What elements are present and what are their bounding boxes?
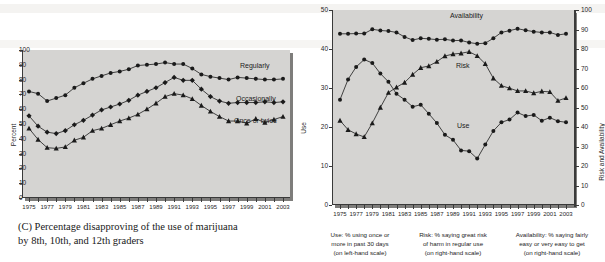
data-point <box>99 107 104 112</box>
x-tick-label-c: 1999 <box>240 204 253 210</box>
data-point <box>172 91 177 96</box>
y-tick-mark-c <box>19 198 22 199</box>
x-tick-mark-c <box>183 198 184 202</box>
series-label-regularly: Regularly <box>240 62 270 69</box>
data-point <box>354 32 358 36</box>
data-point <box>556 33 560 37</box>
data-point <box>532 113 536 117</box>
y-tick-label-right-d: 30 <box>581 143 588 150</box>
x-tick-mark-c <box>74 198 75 202</box>
data-point <box>108 104 113 109</box>
data-point <box>370 120 375 125</box>
data-point <box>548 116 552 120</box>
data-point <box>27 89 31 93</box>
data-point <box>563 95 568 100</box>
x-tick-label-d: 1981 <box>382 211 395 217</box>
data-point <box>108 122 113 127</box>
y-tick-mark-right-d <box>576 205 579 206</box>
x-tick-mark-d <box>397 205 398 209</box>
y-tick-mark-right-d <box>576 69 579 70</box>
data-point <box>435 121 439 125</box>
x-tick-mark-c <box>147 198 148 202</box>
x-tick-mark-d <box>340 205 341 209</box>
x-tick-mark-d <box>437 205 438 209</box>
data-point <box>36 92 40 96</box>
data-point <box>90 113 95 118</box>
x-tick-mark-c <box>138 198 139 202</box>
x-tick-label-c: 1981 <box>77 204 90 210</box>
x-tick-mark-c <box>283 198 284 202</box>
x-tick-label-d: 1985 <box>414 211 427 217</box>
data-point <box>118 69 122 73</box>
data-point <box>451 138 455 142</box>
data-point <box>272 78 276 82</box>
data-point <box>491 36 495 40</box>
x-tick-mark-d <box>356 205 357 209</box>
data-point <box>172 75 177 80</box>
x-tick-mark-d <box>453 205 454 209</box>
data-point <box>564 32 568 36</box>
data-point <box>386 29 390 33</box>
data-point <box>181 62 185 66</box>
data-point <box>346 32 350 36</box>
y-tick-mark-right-d <box>576 147 579 148</box>
data-point <box>145 63 149 67</box>
x-tick-label-d: 2001 <box>543 211 556 217</box>
x-tick-label-d: 1987 <box>430 211 443 217</box>
x-tick-mark-c <box>120 198 121 202</box>
x-tick-label-c: 1993 <box>186 204 199 210</box>
x-tick-mark-d <box>469 205 470 209</box>
x-tick-label-c: 1989 <box>149 204 162 210</box>
x-tick-mark-d <box>429 205 430 209</box>
data-point <box>81 81 85 85</box>
x-tick-label-d: 2003 <box>559 211 572 217</box>
y-tick-label-left-d: 50 <box>321 7 328 14</box>
data-point <box>190 96 195 101</box>
x-tick-mark-c <box>102 198 103 202</box>
data-point <box>467 41 471 45</box>
x-tick-mark-c <box>220 198 221 202</box>
x-tick-mark-d <box>348 205 349 209</box>
data-point <box>208 109 213 114</box>
data-point <box>45 130 50 135</box>
data-point <box>218 76 222 80</box>
x-tick-label-d: 1979 <box>366 211 379 217</box>
data-point <box>26 126 31 131</box>
y-tick-mark-left-d <box>329 205 332 206</box>
data-point <box>434 59 439 64</box>
data-point <box>508 118 512 122</box>
footnote-risk-line-3: (on right-hand scale) <box>406 249 500 258</box>
footnote-risk-line-2: of harm in regular use <box>406 240 500 249</box>
x-tick-label-d: 1975 <box>333 211 346 217</box>
footnote-availability-line-1: Availability: % saying fairly <box>500 231 604 240</box>
data-point <box>126 115 131 120</box>
x-tick-label-c: 2001 <box>258 204 271 210</box>
data-point <box>54 131 59 136</box>
data-point <box>354 131 359 136</box>
x-tick-mark-d <box>485 205 486 209</box>
chart-panel-c: 0102030405060708090100 Percent 197519771… <box>0 0 310 262</box>
data-point <box>263 78 267 82</box>
data-point <box>426 63 431 68</box>
footnote-use-line-2: more in past 30 days <box>314 240 406 249</box>
x-tick-mark-d <box>405 205 406 209</box>
data-point <box>483 41 487 45</box>
y-tick-mark-right-d <box>576 166 579 167</box>
x-tick-label-c: 1995 <box>204 204 217 210</box>
series-label-availability: Availability <box>450 12 483 19</box>
data-point <box>338 32 342 36</box>
data-point <box>395 92 399 96</box>
series-label-use: Use <box>457 122 469 129</box>
data-point <box>411 105 415 109</box>
x-tick-mark-d <box>421 205 422 209</box>
footnote-risk-line-1: Risk: % saying great risk <box>406 231 500 240</box>
y-tick-label-right-d: 50 <box>581 104 588 111</box>
data-point <box>378 72 382 76</box>
x-tick-mark-c <box>83 198 84 202</box>
data-point <box>354 65 358 69</box>
data-point <box>403 35 407 39</box>
y-tick-label-left-d: 40 <box>321 46 328 53</box>
data-point <box>548 30 552 34</box>
x-tick-mark-d <box>518 205 519 209</box>
x-tick-mark-d <box>510 205 511 209</box>
